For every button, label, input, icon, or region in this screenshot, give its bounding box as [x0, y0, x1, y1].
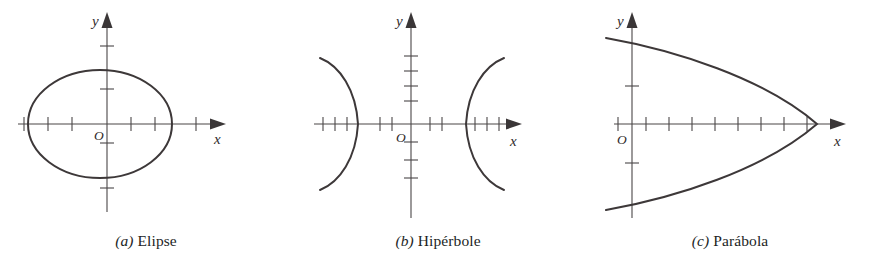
hyperbola-plot: x y O — [292, 0, 584, 232]
x-axis-label: x — [509, 133, 517, 149]
panel-enumerator: (b) — [395, 232, 413, 249]
y-axis-label: y — [90, 13, 99, 29]
panel-caption-text: Elipse — [138, 232, 177, 249]
x-axis-arrowhead — [210, 119, 226, 130]
panel-parabola: x y O (c) Parábola — [584, 0, 876, 278]
panel-caption-ellipse: (a) Elipse — [0, 232, 292, 250]
origin-label: O — [396, 130, 406, 145]
x-axis-label: x — [833, 133, 841, 149]
panel-caption-parabola: (c) Parábola — [584, 232, 876, 250]
conic-sections-figure: x y O (a) Elipse — [0, 0, 876, 278]
y-axis-label: y — [615, 13, 624, 29]
panel-hyperbola: x y O (b) Hipérbole — [292, 0, 584, 278]
x-axis-arrowhead — [506, 119, 522, 130]
x-axis-arrowhead — [830, 119, 846, 130]
panel-caption-text: Hipérbole — [418, 232, 481, 249]
ellipse-plot: x y O — [0, 0, 292, 232]
y-axis-arrowhead — [627, 12, 638, 28]
panel-caption-text: Parábola — [713, 232, 768, 249]
panel-ellipse: x y O (a) Elipse — [0, 0, 292, 278]
y-axis-arrowhead — [406, 12, 417, 28]
y-axis-arrowhead — [102, 12, 113, 28]
panel-caption-hyperbola: (b) Hipérbole — [292, 232, 584, 250]
origin-label: O — [617, 132, 627, 147]
origin-label: O — [94, 128, 104, 143]
panel-enumerator: (a) — [115, 232, 133, 249]
panel-enumerator: (c) — [692, 232, 710, 249]
y-axis-label: y — [394, 13, 403, 29]
x-axis-label: x — [213, 131, 221, 147]
parabola-plot: x y O — [584, 0, 876, 232]
